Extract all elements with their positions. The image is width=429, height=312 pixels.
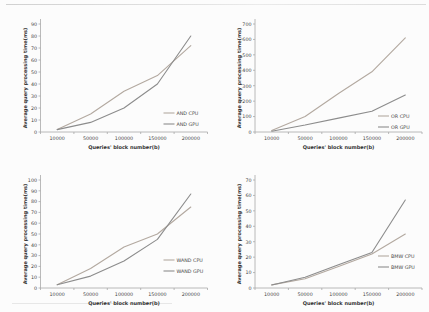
and-y-tick-label: 40 [31, 82, 37, 87]
or-y-tick-label: 200 [242, 99, 251, 104]
and-x-tick-label: 150000 [148, 136, 166, 141]
bmw-x-tick-label: 10000 [264, 292, 279, 297]
and-y-tick-label: 20 [31, 106, 37, 111]
wand-y-tick-label: 80 [31, 199, 37, 204]
bmw-x-axis-title: Queries' block number(b) [303, 300, 375, 306]
wand-x-axis-title: Queries' block number(b) [88, 300, 160, 306]
bmw-y-tick-label: 30 [245, 240, 251, 245]
wand-x-tick-label: 200000 [182, 292, 200, 297]
and-y-tick-label: 30 [31, 94, 37, 99]
or-legend-label-gpu: OR GPU [391, 125, 410, 130]
figure-grid: 0102030405060708090100005000010000015000… [0, 0, 429, 312]
bmw-x-tick-label: 200000 [396, 292, 414, 297]
or-y-axis-title: Average query processing time(ms) [236, 28, 243, 129]
bmw-y-tick-label: 50 [245, 209, 251, 214]
and-y-tick-label: 70 [31, 46, 37, 51]
chart-cell-wand: 0102030405060708090100100005000010000015… [0, 156, 215, 312]
and-x-tick-label: 200000 [182, 136, 200, 141]
wand-y-tick-label: 20 [31, 264, 37, 269]
or-x-tick-label: 50000 [297, 136, 312, 141]
chart-wand-cpu-gpu: 0102030405060708090100100005000010000015… [0, 156, 215, 312]
wand-series-line-wand-cpu [57, 207, 191, 285]
wand-y-axis-title: Average query processing time(ms) [22, 184, 29, 285]
and-x-tick-label: 100000 [115, 136, 133, 141]
bmw-y-tick-label: 0 [248, 286, 251, 291]
bmw-legend-label-gpu: BMW GPU [391, 265, 415, 270]
and-x-axis-title: Queries' block number(b) [88, 144, 160, 150]
wand-y-tick-label: 0 [34, 286, 37, 291]
chart-and-cpu-gpu: 0102030405060708090100005000010000015000… [0, 0, 215, 156]
wand-y-tick-label: 100 [28, 178, 37, 183]
and-y-axis-title: Average query processing time(ms) [22, 28, 29, 129]
bmw-y-axis-title: Average query processing time(ms) [236, 184, 243, 285]
wand-y-tick-label: 60 [31, 221, 37, 226]
or-series-line-or-cpu [272, 38, 406, 131]
bmw-y-tick-label: 20 [245, 255, 251, 260]
or-y-tick-label: 100 [242, 114, 251, 119]
or-legend-label-cpu: OR CPU [391, 114, 410, 119]
or-y-tick-label: 600 [242, 37, 251, 42]
wand-x-tick-label: 50000 [83, 292, 98, 297]
wand-y-tick-label: 30 [31, 253, 37, 258]
wand-y-tick-label: 90 [31, 189, 37, 194]
or-y-tick-label: 400 [242, 68, 251, 73]
and-legend-label-gpu: AND GPU [177, 122, 200, 127]
wand-legend-label-gpu: WAND GPU [177, 269, 204, 274]
wand-y-tick-label: 40 [31, 243, 37, 248]
bmw-legend-label-cpu: BMW CPU [391, 254, 415, 259]
or-x-tick-label: 100000 [329, 136, 347, 141]
or-y-tick-label: 0 [248, 130, 251, 135]
and-x-tick-label: 10000 [50, 136, 65, 141]
wand-y-tick-label: 50 [31, 232, 37, 237]
and-x-tick-label: 50000 [83, 136, 98, 141]
or-x-tick-label: 150000 [363, 136, 381, 141]
or-y-tick-label: 500 [242, 53, 251, 58]
and-series-line-and-gpu [57, 36, 191, 130]
bmw-x-tick-label: 150000 [363, 292, 381, 297]
wand-y-tick-label: 10 [31, 275, 37, 280]
chart-bmw-cpu-gpu: 0102030405060701000050000100000150000200… [215, 156, 429, 312]
bmw-series-line-bmw-cpu [272, 234, 406, 285]
wand-legend-label-cpu: WAND CPU [177, 258, 204, 263]
and-y-tick-label: 0 [34, 130, 37, 135]
and-y-tick-label: 80 [31, 34, 37, 39]
and-y-tick-label: 10 [31, 118, 37, 123]
bmw-y-tick-label: 60 [245, 193, 251, 198]
or-series-line-or-gpu [272, 95, 406, 131]
and-series-line-and-cpu [57, 46, 191, 130]
or-x-tick-label: 10000 [264, 136, 279, 141]
and-y-tick-label: 90 [31, 22, 37, 27]
bmw-y-tick-label: 70 [245, 178, 251, 183]
chart-cell-bmw: 0102030405060701000050000100000150000200… [215, 156, 429, 312]
wand-x-tick-label: 100000 [115, 292, 133, 297]
or-x-axis-title: Queries' block number(b) [303, 144, 375, 150]
wand-x-tick-label: 10000 [50, 292, 65, 297]
chart-cell-or: 0100200300400500600700100005000010000015… [215, 0, 429, 156]
bmw-x-tick-label: 50000 [297, 292, 312, 297]
bmw-series-line-bmw-gpu [272, 200, 406, 285]
or-y-tick-label: 700 [242, 22, 251, 27]
bmw-y-tick-label: 10 [245, 270, 251, 275]
and-legend-label-cpu: AND CPU [177, 111, 199, 116]
or-y-tick-label: 300 [242, 84, 251, 89]
and-y-tick-label: 60 [31, 58, 37, 63]
and-y-tick-label: 50 [31, 70, 37, 75]
wand-y-tick-label: 70 [31, 210, 37, 215]
wand-x-tick-label: 150000 [148, 292, 166, 297]
bmw-y-tick-label: 40 [245, 224, 251, 229]
bmw-x-tick-label: 100000 [329, 292, 347, 297]
chart-or-cpu-gpu: 0100200300400500600700100005000010000015… [215, 0, 429, 156]
chart-cell-and: 0102030405060708090100005000010000015000… [0, 0, 215, 156]
or-x-tick-label: 200000 [396, 136, 414, 141]
